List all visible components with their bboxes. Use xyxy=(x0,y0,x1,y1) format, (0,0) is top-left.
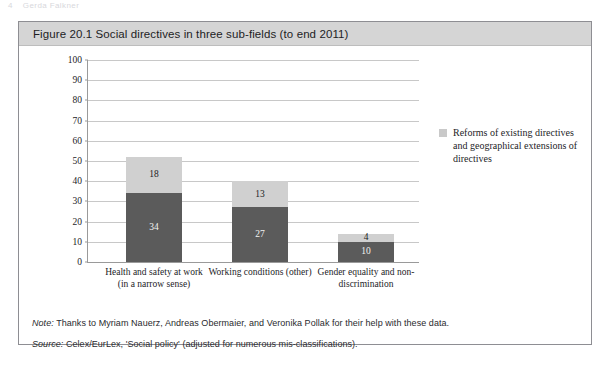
running-head: Gerda Falkner xyxy=(23,1,79,10)
chart-legend: Reforms of existing directives and geogr… xyxy=(439,126,589,165)
gridline xyxy=(88,80,419,81)
bar-segment-reforms[interactable]: 18 xyxy=(126,157,182,193)
source-text: Celex/EurLex, 'Social policy' (adjusted … xyxy=(63,339,357,349)
figure-body: 01020304050607080901001834Health and saf… xyxy=(19,46,591,344)
y-axis-tick-mark xyxy=(85,201,88,202)
y-axis-tick-mark xyxy=(85,80,88,81)
figure-box: Figure 20.1 Social directives in three s… xyxy=(18,21,592,345)
y-axis-tick-mark xyxy=(85,241,88,242)
y-axis-tick-mark xyxy=(85,262,88,263)
bar-value-label: 18 xyxy=(149,170,159,180)
bar-value-label: 34 xyxy=(149,223,159,233)
figure-footnotes: Note: Thanks to Myriam Nauerz, Andreas O… xyxy=(32,318,580,360)
source-prefix: Source: xyxy=(32,339,63,349)
y-axis-tick-mark xyxy=(85,100,88,101)
bar-value-label: 10 xyxy=(361,247,371,257)
bar-segment-new[interactable]: 34 xyxy=(126,193,182,262)
bar-group[interactable]: 410Gender equality and non-discriminatio… xyxy=(338,234,394,262)
x-axis-category-label: Gender equality and non-discrimination xyxy=(291,267,441,290)
legend-label-reforms: Reforms of existing directives and geogr… xyxy=(453,126,589,165)
note-prefix: Note: xyxy=(32,318,54,328)
figure-note: Note: Thanks to Myriam Nauerz, Andreas O… xyxy=(32,318,580,328)
y-axis-tick-mark xyxy=(85,120,88,121)
y-axis-tick-mark xyxy=(85,221,88,222)
page-number: 4 xyxy=(8,1,13,10)
x-axis-category-line: (in a narrow sense) xyxy=(79,279,229,291)
bar-segment-reforms[interactable]: 13 xyxy=(232,181,288,207)
bar-segment-new[interactable]: 10 xyxy=(338,242,394,262)
bar-value-label: 13 xyxy=(255,190,265,200)
gridline xyxy=(88,60,419,61)
legend-swatch-reforms xyxy=(439,129,447,137)
note-text: Thanks to Myriam Nauerz, Andreas Obermai… xyxy=(54,318,449,328)
bar-value-label: 27 xyxy=(255,230,265,240)
x-axis-category-line: Gender equality and non- xyxy=(291,267,441,279)
figure-title: Figure 20.1 Social directives in three s… xyxy=(19,28,348,40)
bar-segment-reforms[interactable]: 4 xyxy=(338,234,394,242)
chart-area: 01020304050607080901001834Health and saf… xyxy=(19,46,593,301)
gridline xyxy=(88,141,419,142)
y-axis-tick-mark xyxy=(85,140,88,141)
y-axis-tick-mark xyxy=(85,181,88,182)
y-axis-tick-mark xyxy=(85,60,88,61)
plot-area: 01020304050607080901001834Health and saf… xyxy=(87,60,419,263)
y-axis-tick-mark xyxy=(85,161,88,162)
x-axis-category-line: discrimination xyxy=(291,279,441,291)
figure-title-band: Figure 20.1 Social directives in three s… xyxy=(19,22,591,46)
gridline xyxy=(88,100,419,101)
page-running-header: 4Gerda Falkner xyxy=(8,1,79,10)
bar-segment-new[interactable]: 27 xyxy=(232,207,288,262)
bar-group[interactable]: 1327Working conditions (other) xyxy=(232,181,288,262)
figure-source: Source: Celex/EurLex, 'Social policy' (a… xyxy=(32,339,580,349)
bar-group[interactable]: 1834Health and safety at work(in a narro… xyxy=(126,157,182,262)
gridline xyxy=(88,121,419,122)
